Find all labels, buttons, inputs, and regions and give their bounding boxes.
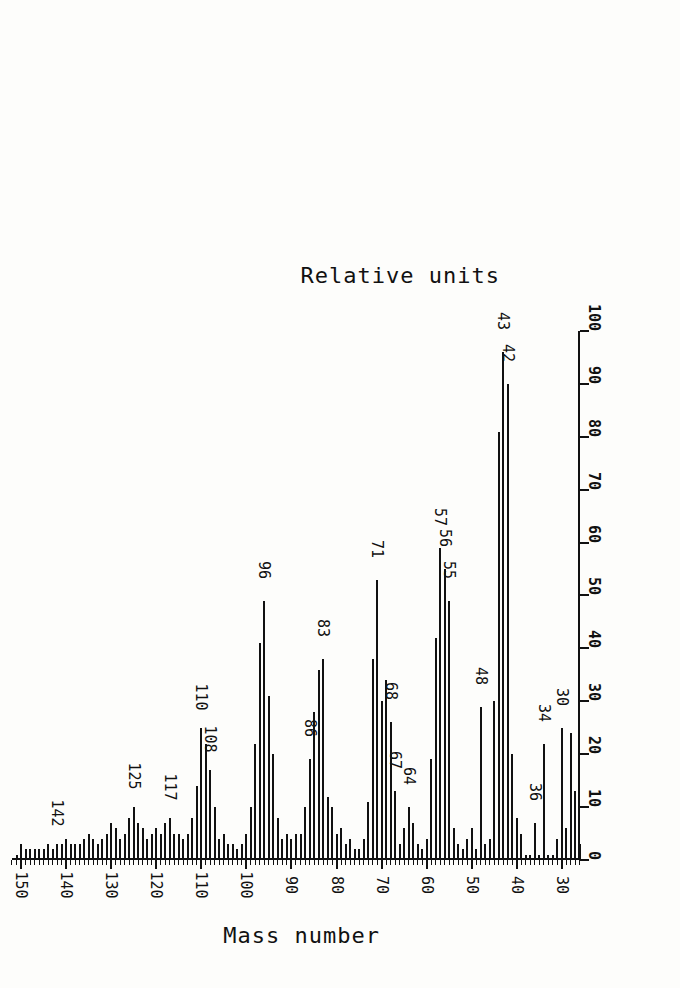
peak-annotation: 43	[494, 301, 512, 341]
spectrum-peak	[142, 828, 144, 860]
mass-tick-minor	[286, 860, 287, 865]
spectrum-peak	[435, 638, 437, 860]
mass-tick-minor	[151, 860, 152, 865]
spectrum-peak	[214, 807, 216, 860]
spectrum-peak	[363, 839, 365, 860]
mass-tick-minor	[327, 860, 328, 865]
mass-tick-minor	[241, 860, 242, 865]
spectrum-peak	[345, 844, 347, 860]
intensity-tick-label: 40	[585, 614, 603, 648]
spectrum-peak	[137, 823, 139, 860]
spectrum-peak	[309, 760, 311, 861]
mass-tick-minor	[503, 860, 504, 865]
spectrum-peak	[349, 839, 351, 860]
intensity-tick-label: 100	[585, 297, 603, 331]
spectrum-peak	[327, 797, 329, 860]
peak-annotation: 86	[301, 709, 319, 749]
intensity-axis-title: Relative units	[301, 263, 500, 288]
mass-tick-minor	[12, 860, 13, 865]
spectrum-peak	[65, 839, 67, 860]
mass-tick-minor	[512, 860, 513, 865]
peak-annotation: 57	[431, 497, 449, 537]
mass-tick-minor	[557, 860, 558, 865]
mass-tick-major	[471, 860, 473, 869]
mass-tick-minor	[268, 860, 269, 865]
spectrum-peak	[502, 352, 504, 860]
spectrum-peak	[484, 844, 486, 860]
spectrum-peak	[367, 802, 369, 860]
spectrum-peak	[259, 643, 261, 860]
mass-tick-major	[336, 860, 338, 869]
mass-tick-minor	[480, 860, 481, 865]
mass-tick-minor	[88, 860, 89, 865]
mass-tick-label: 30	[553, 869, 571, 901]
mass-tick-minor	[147, 860, 148, 865]
mass-tick-minor	[449, 860, 450, 865]
spectrum-peak	[106, 834, 108, 860]
mass-tick-minor	[525, 860, 526, 865]
spectrum-peak	[529, 855, 531, 860]
spectrum-peak	[133, 807, 135, 860]
mass-tick-minor	[102, 860, 103, 865]
spectrum-peak	[43, 849, 45, 860]
mass-spectrum-plot: 30405060708090100110120130140150 0102030…	[0, 0, 680, 988]
mass-tick-label: 150	[12, 869, 30, 901]
spectrum-peak	[493, 701, 495, 860]
mass-tick-minor	[377, 860, 378, 865]
mass-tick-minor	[413, 860, 414, 865]
spectrum-peak	[191, 818, 193, 860]
mass-tick-minor	[165, 860, 166, 865]
mass-tick-major	[381, 860, 383, 869]
mass-tick-minor	[237, 860, 238, 865]
mass-tick-minor	[250, 860, 251, 865]
spectrum-peak	[110, 823, 112, 860]
spectrum-peak	[187, 834, 189, 860]
spectrum-peak	[281, 839, 283, 860]
mass-tick-minor	[48, 860, 49, 865]
intensity-tick-label: 50	[585, 562, 603, 596]
mass-tick-minor	[124, 860, 125, 865]
mass-tick-minor	[534, 860, 535, 865]
mass-tick-major	[20, 860, 22, 869]
spectrum-peak	[340, 828, 342, 860]
spectrum-peak	[538, 855, 540, 860]
spectrum-peak	[16, 855, 18, 860]
mass-tick-minor	[422, 860, 423, 865]
mass-tick-major	[245, 860, 247, 869]
spectrum-peak	[128, 818, 130, 860]
mass-tick-minor	[277, 860, 278, 865]
mass-tick-minor	[440, 860, 441, 865]
spectrum-peak	[173, 834, 175, 860]
mass-tick-minor	[444, 860, 445, 865]
mass-tick-minor	[462, 860, 463, 865]
spectrum-peak	[318, 670, 320, 860]
peak-annotation: 142	[48, 793, 66, 833]
mass-tick-label: 140	[57, 869, 75, 901]
spectrum-peak	[556, 839, 558, 860]
mass-tick-minor	[521, 860, 522, 865]
spectrum-peak	[291, 839, 293, 860]
mass-tick-minor	[552, 860, 553, 865]
mass-tick-label: 130	[102, 869, 120, 901]
mass-tick-minor	[539, 860, 540, 865]
mass-tick-minor	[16, 860, 17, 865]
spectrum-peak	[169, 818, 171, 860]
spectrum-peak	[475, 849, 477, 860]
spectrum-peak	[570, 733, 572, 860]
intensity-tick-label: 60	[585, 509, 603, 543]
spectrum-peak	[70, 844, 72, 860]
spectrum-peak	[525, 855, 527, 860]
spectrum-peak	[218, 839, 220, 860]
mass-tick-minor	[160, 860, 161, 865]
spectrum-peak	[101, 839, 103, 860]
spectrum-peak	[412, 823, 414, 860]
spectrum-peak	[124, 834, 126, 860]
mass-tick-minor	[210, 860, 211, 865]
mass-tick-minor	[264, 860, 265, 865]
mass-tick-minor	[296, 860, 297, 865]
spectrum-peak	[489, 839, 491, 860]
mass-tick-minor	[354, 860, 355, 865]
spectrum-peak	[74, 844, 76, 860]
mass-tick-label: 120	[147, 869, 165, 901]
mass-tick-minor	[498, 860, 499, 865]
